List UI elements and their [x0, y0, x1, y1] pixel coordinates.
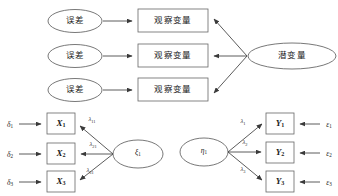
lambda-label-21: λ21	[88, 140, 96, 148]
edge-latent-to-observed1	[214, 19, 247, 56]
edge-ksi-to-x3	[80, 154, 113, 180]
delta-label-1: δ1	[7, 120, 14, 129]
error-ellipse-label-3: 误差	[66, 84, 85, 94]
diagram-svg: 误差 误差 误差 观察变量 观察变量 观察变量 潜变量	[0, 0, 338, 196]
error-ellipse-label-1: 误差	[66, 15, 85, 25]
panel-exogenous: δ1 δ2 δ3 X1 X2 X3	[7, 113, 163, 192]
epsilon-label-3: ε3	[326, 178, 332, 187]
lambda-label-1: λ1	[239, 117, 245, 125]
latent-ellipse-label: 潜变量	[278, 50, 306, 60]
edge-eta-to-y3	[228, 152, 262, 180]
lambda-label-11: λ11	[87, 115, 95, 123]
epsilon-label-2: ε2	[326, 149, 332, 158]
observed-box-label-1: 观察变量	[154, 15, 191, 25]
observed-box-label-2: 观察变量	[154, 50, 191, 60]
sem-diagram-canvas: 误差 误差 误差 观察变量 观察变量 观察变量 潜变量	[0, 0, 338, 196]
error-ellipse-label-2: 误差	[66, 50, 85, 60]
delta-label-3: δ3	[7, 178, 14, 187]
delta-label-2: δ2	[7, 150, 14, 159]
epsilon-label-1: ε1	[326, 120, 332, 129]
edge-ksi-to-x1	[80, 126, 113, 154]
edge-latent-to-observed3	[214, 56, 247, 93]
panel-conceptual: 误差 误差 误差 观察变量 观察变量 观察变量 潜变量	[48, 9, 336, 102]
observed-box-label-3: 观察变量	[154, 84, 191, 94]
lambda-label-2: λ2	[241, 138, 247, 146]
panel-endogenous: η1 λ1 λ2 λ3 Y1 Y2	[180, 113, 332, 192]
lambda-label-31: λ31	[85, 166, 93, 174]
